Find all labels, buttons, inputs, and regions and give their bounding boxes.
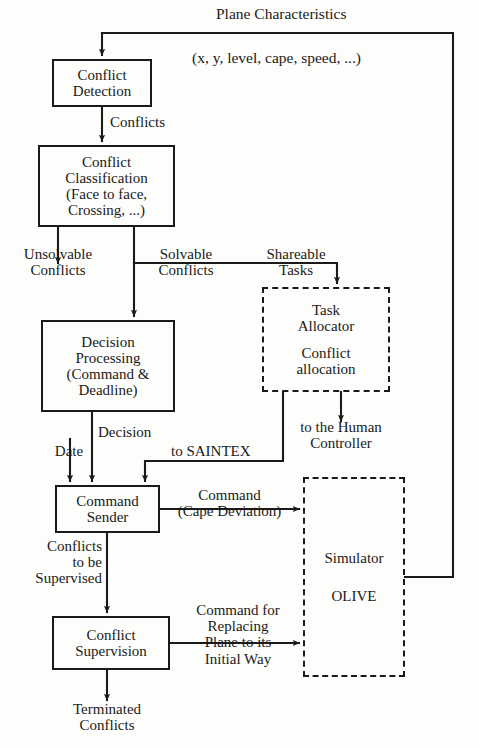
node-conflict-supervision-line-1: Conflict (86, 627, 135, 643)
node-simulator-olive[interactable]: Simulator OLIVE (303, 477, 405, 677)
label-date-line-1: Date (36, 443, 102, 459)
node-decision-processing-line-3: (Command & (67, 366, 150, 382)
label-command-for-replacing-line-1: Command for (176, 602, 300, 618)
node-decision-processing[interactable]: Decision Processing (Command & Deadline) (41, 320, 175, 412)
label-conflicts-to-be-supervised-line-3: Supervised (2, 570, 102, 586)
node-task-allocator-line-5: allocation (296, 361, 355, 377)
label-to-saintex: to SAINTEX (171, 443, 251, 459)
diagram-subtitle: (x, y, level, cape, speed, ...) (192, 49, 361, 67)
node-task-allocator[interactable]: Task Allocator Conflict allocation (262, 287, 390, 392)
label-shareable-tasks-line-1: Shareable (248, 246, 344, 262)
node-command-sender-line-1: Command (76, 493, 139, 509)
label-conflicts-to-be-supervised-line-2: to be (2, 554, 102, 570)
node-decision-processing-line-2: Processing (76, 350, 141, 366)
node-command-sender-line-2: Sender (87, 509, 129, 525)
node-conflict-supervision[interactable]: Conflict Supervision (52, 616, 170, 670)
label-conflicts: Conflicts (110, 114, 165, 130)
label-terminated-conflicts: Terminated Conflicts (43, 701, 171, 733)
node-conflict-classification[interactable]: Conflict Classification (Face to face, C… (38, 145, 175, 227)
label-command-for-replacing: Command for Replacing Plane to its Initi… (176, 602, 300, 667)
label-to-human-controller-line-1: to the Human (281, 419, 401, 435)
node-simulator-line-1: Simulator (324, 550, 383, 566)
label-terminated-conflicts-line-2: Conflicts (43, 717, 171, 733)
label-command-cape-deviation: Command (Cape Deviation) (157, 487, 302, 519)
label-decision-line-1: Decision (98, 424, 151, 440)
node-conflict-classification-line-1: Conflict (82, 154, 131, 170)
label-command-for-replacing-line-4: Initial Way (176, 651, 300, 667)
node-task-allocator-line-4: Conflict (301, 345, 350, 361)
label-shareable-tasks: Shareable Tasks (248, 246, 344, 278)
node-task-allocator-line-2: Allocator (298, 318, 355, 334)
label-conflicts-line-1: Conflicts (110, 114, 165, 130)
node-conflict-detection[interactable]: Conflict Detection (52, 59, 152, 107)
node-simulator-line-3: OLIVE (332, 588, 377, 604)
node-decision-processing-line-1: Decision (81, 334, 134, 350)
label-shareable-tasks-line-2: Tasks (248, 262, 344, 278)
node-command-sender[interactable]: Command Sender (55, 485, 160, 533)
label-solvable-conflicts-line-2: Conflicts (139, 262, 233, 278)
label-to-human-controller: to the Human Controller (281, 419, 401, 451)
node-conflict-detection-line-1: Conflict (77, 67, 126, 83)
flowchart-canvas: Plane Characteristics (x, y, level, cape… (0, 0, 479, 748)
node-task-allocator-line-1: Task (312, 302, 340, 318)
label-to-human-controller-line-2: Controller (281, 435, 401, 451)
node-decision-processing-line-4: Deadline) (78, 382, 137, 398)
label-terminated-conflicts-line-1: Terminated (43, 701, 171, 717)
label-to-saintex-line-1: to SAINTEX (171, 443, 251, 459)
node-conflict-detection-line-2: Detection (73, 83, 131, 99)
label-conflicts-to-be-supervised-line-1: Conflicts (2, 538, 102, 554)
label-unsolvable-conflicts-line-1: Unsolvable (4, 246, 112, 262)
label-unsolvable-conflicts: Unsolvable Conflicts (4, 246, 112, 278)
node-conflict-classification-line-3: (Face to face, (66, 186, 147, 202)
label-conflicts-to-be-supervised: Conflicts to be Supervised (2, 538, 102, 587)
label-date: Date (36, 443, 102, 459)
label-solvable-conflicts-line-1: Solvable (139, 246, 233, 262)
node-conflict-supervision-line-2: Supervision (75, 643, 147, 659)
label-decision: Decision (98, 424, 151, 440)
node-conflict-classification-line-2: Classification (65, 170, 148, 186)
node-conflict-classification-line-4: Crossing, ...) (68, 202, 145, 218)
label-unsolvable-conflicts-line-2: Conflicts (4, 262, 112, 278)
label-command-for-replacing-line-2: Replacing (176, 618, 300, 634)
label-command-cape-deviation-line-1: Command (157, 487, 302, 503)
label-solvable-conflicts: Solvable Conflicts (139, 246, 233, 278)
diagram-title: Plane Characteristics (216, 5, 346, 23)
label-command-cape-deviation-line-2: (Cape Deviation) (157, 503, 302, 519)
label-command-for-replacing-line-3: Plane to its (176, 634, 300, 650)
